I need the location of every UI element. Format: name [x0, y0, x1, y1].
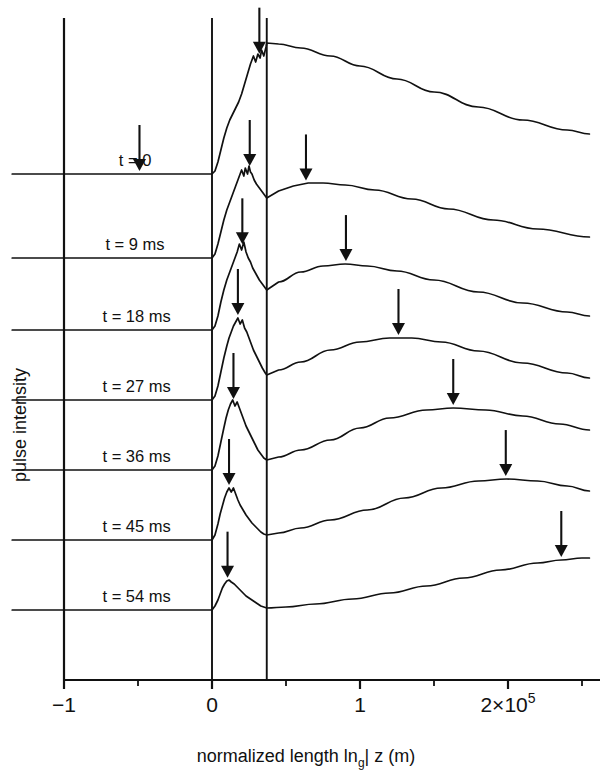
arrow-annotation-2-0	[236, 198, 249, 244]
trace-label-0: t = 0	[119, 151, 152, 169]
x-axis-title-subscript: g	[358, 756, 365, 770]
arrow-head-icon	[555, 545, 568, 557]
trace-curve-2	[12, 242, 589, 330]
trace-label-5: t = 45 ms	[102, 517, 170, 535]
trace-curve-0	[12, 43, 589, 174]
arrow-head-icon	[392, 323, 405, 335]
vertical-marker-lines	[212, 18, 267, 680]
arrow-head-icon	[223, 473, 236, 485]
trace-curves-layer	[12, 43, 589, 610]
x-tick-label-2: 1	[354, 693, 366, 716]
arrow-head-icon	[253, 42, 266, 54]
arrow-annotation-1-1	[299, 134, 312, 180]
x-axis-title-pre: normalized length ln	[197, 746, 358, 766]
arrow-annotation-6-1	[555, 511, 568, 557]
trace-curve-1	[12, 166, 589, 258]
arrow-head-icon	[447, 393, 460, 405]
x-axis-title-post: | z (m)	[365, 746, 416, 766]
x-tick-label-0: −1	[52, 693, 76, 716]
trace-label-4: t = 36 ms	[102, 447, 170, 465]
arrow-head-icon	[221, 566, 234, 578]
trace-curve-6	[12, 558, 589, 610]
arrow-annotations-layer	[133, 8, 568, 578]
pulse-intensity-chart: t = 0t = 9 mst = 18 mst = 27 mst = 36 ms…	[0, 0, 613, 779]
trace-label-1: t = 9 ms	[105, 235, 164, 253]
x-tick-label-3: 2×105	[480, 690, 535, 716]
x-tick-labels: −1012×105	[52, 690, 536, 716]
arrow-head-icon	[299, 168, 312, 180]
arrow-annotation-3-1	[392, 289, 405, 335]
arrow-head-icon	[339, 249, 352, 261]
arrow-annotation-1-0	[243, 120, 256, 166]
trace-label-6: t = 54 ms	[102, 587, 170, 605]
arrow-head-icon	[227, 387, 240, 399]
arrow-head-icon	[236, 232, 249, 244]
arrow-annotation-5-1	[499, 430, 512, 476]
trace-curve-4	[12, 400, 589, 470]
trace-label-3: t = 27 ms	[102, 377, 170, 395]
arrow-annotation-4-1	[447, 359, 460, 405]
trace-curve-5	[12, 479, 589, 540]
arrow-annotation-6-0	[221, 532, 234, 578]
arrow-annotation-4-0	[227, 353, 240, 399]
trace-labels-layer: t = 0t = 9 mst = 18 mst = 27 mst = 36 ms…	[102, 151, 170, 605]
arrow-head-icon	[231, 303, 244, 315]
y-axis-title: pulse intensity	[10, 368, 30, 482]
arrow-head-icon	[499, 464, 512, 476]
arrow-annotation-5-0	[223, 439, 236, 485]
arrow-annotation-2-1	[339, 215, 352, 261]
arrow-head-icon	[243, 154, 256, 166]
arrow-annotation-0-1	[253, 8, 266, 54]
arrow-annotation-3-0	[231, 269, 244, 315]
trace-label-2: t = 18 ms	[102, 307, 170, 325]
x-tick-label-1: 0	[206, 693, 218, 716]
x-axis-title: normalized length lng| z (m)	[197, 746, 415, 770]
figure-root: t = 0t = 9 mst = 18 mst = 27 mst = 36 ms…	[0, 0, 613, 779]
